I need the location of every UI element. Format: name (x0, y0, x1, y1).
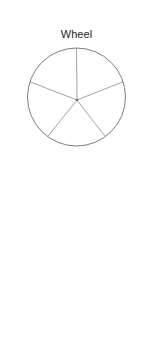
figure-wheel: Wheel (0, 0, 153, 177)
wheel-spoke-upper-left (30, 82, 77, 100)
diagram-page: Wheel All channel (0, 0, 153, 354)
wheel-network-diagram (0, 44, 153, 154)
wheel-spoke-lower-left (48, 100, 77, 137)
wheel-spoke-lower-right (77, 100, 105, 137)
wheel-hub-node (76, 99, 79, 102)
wheel-spoke-upper-right (77, 82, 123, 100)
figure-caption-wheel: Wheel (0, 28, 153, 41)
wheel-spoke-top (77, 48, 78, 100)
figure-all-channel: All channel (0, 177, 153, 354)
